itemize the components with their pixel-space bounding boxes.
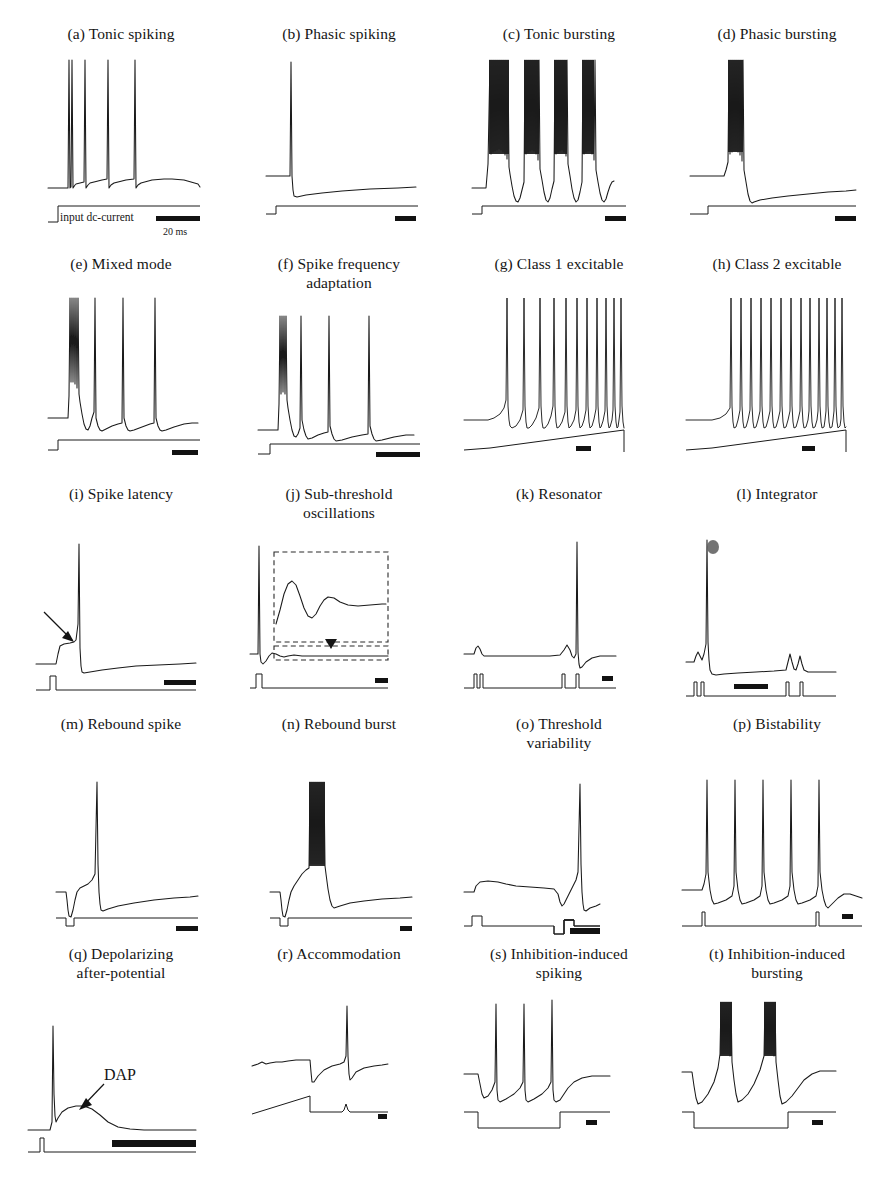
- inset-oscillation-trace: [276, 581, 386, 624]
- input-current-trace: [472, 206, 626, 214]
- panel-b-phasic-spiking: (b) Phasic spiking: [230, 24, 448, 256]
- inset-pointer-arrow: [325, 639, 337, 649]
- panel-c-title: (c) Tonic bursting: [450, 24, 668, 43]
- panel-g-plot: [450, 254, 668, 486]
- panel-c-plot: [450, 24, 668, 256]
- panel-o-title-line1: (o) Threshold: [516, 715, 602, 732]
- inset-source-box: [274, 646, 388, 660]
- time-scale-label: 20 ms: [163, 226, 187, 237]
- panel-m-plot: [12, 714, 230, 946]
- voltage-trace: [686, 298, 846, 428]
- voltage-trace: [258, 316, 414, 441]
- input-current-pulse: [36, 676, 196, 690]
- panel-i-title: (i) Spike latency: [12, 484, 230, 503]
- scale-bar: [602, 676, 613, 681]
- voltage-trace: [28, 1026, 196, 1130]
- scale-bar: [802, 446, 815, 451]
- input-current-pulses: [464, 674, 616, 688]
- scale-bar: [112, 1140, 196, 1147]
- voltage-trace: [464, 542, 616, 668]
- panel-h-title: (h) Class 2 excitable: [668, 254, 872, 273]
- input-current-pulses: [464, 916, 600, 934]
- scale-bar: [164, 680, 196, 685]
- panel-d-title: (d) Phasic bursting: [668, 24, 872, 43]
- panel-q-title-line2: after-potential: [12, 963, 230, 982]
- panel-q-title: (q) Depolarizingafter-potential: [12, 944, 230, 982]
- panel-n-rebound-burst: (n) Rebound burst: [230, 714, 448, 946]
- panel-t-title-line1: (t) Inhibition-induced: [709, 945, 845, 962]
- scale-bar: [156, 216, 200, 221]
- scale-bar: [812, 1120, 823, 1125]
- panel-i-spike-latency: (i) Spike latency: [12, 484, 230, 716]
- panel-t-inhibition-induced-bursting: (t) Inhibition-inducedbursting: [668, 944, 872, 1176]
- panel-a-plot: input dc-current 20 ms: [12, 24, 230, 256]
- panel-f-title-line1: (f) Spike frequency: [278, 255, 400, 272]
- panel-e-mixed-mode: (e) Mixed mode: [12, 254, 230, 486]
- panel-f-spike-frequency-adaptation: (f) Spike frequencyadaptation: [230, 254, 448, 486]
- voltage-trace: [270, 782, 412, 917]
- panel-o-title: (o) Thresholdvariability: [450, 714, 668, 752]
- panel-s-title: (s) Inhibition-inducedspiking: [450, 944, 668, 982]
- panel-s-title-line1: (s) Inhibition-induced: [490, 945, 628, 962]
- scale-bar: [570, 928, 600, 934]
- input-current-pulse: [28, 1138, 196, 1152]
- panel-p-title: (p) Bistability: [668, 714, 872, 733]
- panel-p-plot: [668, 714, 872, 946]
- dap-label: DAP: [104, 1066, 136, 1083]
- panel-g-class-1-excitable: (g) Class 1 excitable: [450, 254, 668, 486]
- voltage-trace: [690, 60, 856, 203]
- scale-bar: [400, 926, 412, 931]
- input-current-ramp: [464, 430, 624, 452]
- voltage-trace: [56, 782, 198, 917]
- dap-annotation: DAP: [79, 1066, 136, 1110]
- voltage-trace: [36, 544, 196, 673]
- panel-q-title-line1: (q) Depolarizing: [69, 945, 173, 962]
- scale-bar: [378, 1114, 387, 1119]
- panel-j-title-line2: oscillations: [230, 503, 448, 522]
- panel-f-title: (f) Spike frequencyadaptation: [230, 254, 448, 292]
- panel-r-accommodation: (r) Accommodation: [230, 944, 448, 1176]
- panel-e-plot: [12, 254, 230, 486]
- voltage-trace: [682, 1002, 836, 1104]
- voltage-trace: [48, 298, 198, 431]
- latency-arrow: [44, 612, 74, 642]
- panel-n-title: (n) Rebound burst: [230, 714, 448, 733]
- panel-e-title: (e) Mixed mode: [12, 254, 230, 273]
- scale-bar: [842, 914, 853, 919]
- input-current-ramp: [686, 430, 846, 452]
- input-current-trace: [48, 206, 200, 222]
- scale-bar: [605, 216, 626, 221]
- scale-bar: [734, 684, 768, 689]
- panel-n-plot: [230, 714, 448, 946]
- inset-box: [274, 552, 388, 642]
- panel-g-title: (g) Class 1 excitable: [450, 254, 668, 273]
- scale-bar: [395, 216, 416, 221]
- input-current-pulses-2: [554, 920, 600, 934]
- panel-d-phasic-bursting: (d) Phasic bursting: [668, 24, 872, 256]
- input-current-trace: [266, 206, 418, 214]
- scale-bar: [176, 926, 198, 931]
- panel-j-title-line1: (j) Sub-threshold: [285, 485, 392, 502]
- input-current-trace: [258, 444, 420, 454]
- panel-o-threshold-variability: (o) Thresholdvariability: [450, 714, 668, 946]
- scale-bar: [376, 452, 420, 457]
- panel-k-title: (k) Resonator: [450, 484, 668, 503]
- panel-h-plot: [668, 254, 872, 486]
- input-current-ramps: [252, 1096, 388, 1114]
- panel-t-title: (t) Inhibition-inducedbursting: [668, 944, 872, 982]
- scale-bar: [835, 216, 856, 221]
- panel-j-sub-threshold-oscillations: (j) Sub-thresholdoscillations: [230, 484, 448, 716]
- scale-bar: [172, 450, 198, 455]
- panel-l-plot: [668, 484, 872, 716]
- panel-m-rebound-spike: (m) Rebound spike: [12, 714, 230, 946]
- panel-b-plot: [230, 24, 448, 256]
- panel-q-depolarizing-after-potential: (q) Depolarizingafter-potential DAP: [12, 944, 230, 1176]
- panel-t-title-line2: bursting: [668, 963, 872, 982]
- input-current-step: [682, 1112, 836, 1128]
- voltage-trace: [464, 784, 600, 911]
- panel-m-title: (m) Rebound spike: [12, 714, 230, 733]
- panel-b-title: (b) Phasic spiking: [230, 24, 448, 43]
- input-current-trace: [48, 440, 200, 450]
- voltage-trace: [682, 780, 862, 908]
- input-current-pulses: [682, 912, 862, 926]
